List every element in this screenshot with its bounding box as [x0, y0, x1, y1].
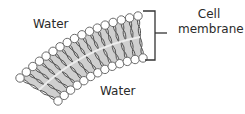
membrane-diagram: Water Water Cell membrane: [0, 0, 245, 114]
water-label-outside: Water: [33, 18, 68, 31]
phospholipid-head: [134, 12, 142, 20]
membrane-bracket: [143, 11, 167, 60]
phospholipid-head: [93, 24, 101, 32]
water-label-inside: Water: [100, 85, 135, 98]
phospholipid-head: [117, 16, 125, 24]
phospholipid-head: [131, 55, 139, 63]
phospholipid-head: [109, 18, 117, 26]
phospholipid-head: [125, 14, 133, 22]
cell-membrane-label-line2: membrane: [178, 22, 240, 37]
phospholipid-head: [101, 21, 109, 29]
phospholipid-head: [116, 60, 124, 68]
phospholipid-head: [139, 54, 147, 62]
cell-membrane-label-line1: Cell: [178, 7, 240, 22]
phospholipid-head: [123, 57, 131, 65]
cell-membrane-label: Cell membrane: [178, 7, 240, 37]
phospholipid-head: [85, 27, 93, 35]
